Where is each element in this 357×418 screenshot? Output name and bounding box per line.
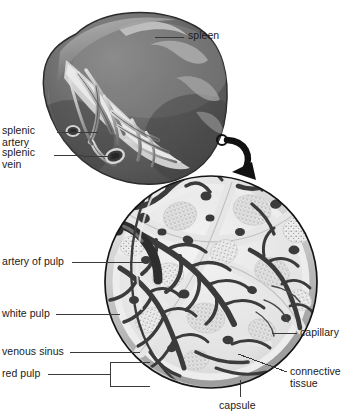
- label-connective-tissue: connective tissue: [290, 366, 341, 389]
- spleen-diagram-figure: spleen splenic artery splenic vein arter…: [0, 0, 357, 418]
- label-capillary: capillary: [300, 327, 339, 339]
- splenic-artery-vessel: [67, 126, 80, 136]
- magnify-arrow: [217, 135, 256, 180]
- label-capsule: capsule: [219, 400, 256, 412]
- leader-red-pulp-bracket: [48, 362, 150, 386]
- label-artery-of-pulp: artery of pulp: [2, 256, 64, 268]
- label-splenic-artery: splenic artery: [2, 125, 35, 148]
- label-spleen: spleen: [188, 30, 219, 42]
- label-red-pulp: red pulp: [2, 368, 40, 380]
- label-white-pulp: white pulp: [2, 308, 50, 320]
- label-venous-sinus: venous sinus: [2, 346, 64, 358]
- magnify-arrow-curve: [227, 140, 248, 170]
- label-splenic-vein: splenic vein: [2, 147, 35, 170]
